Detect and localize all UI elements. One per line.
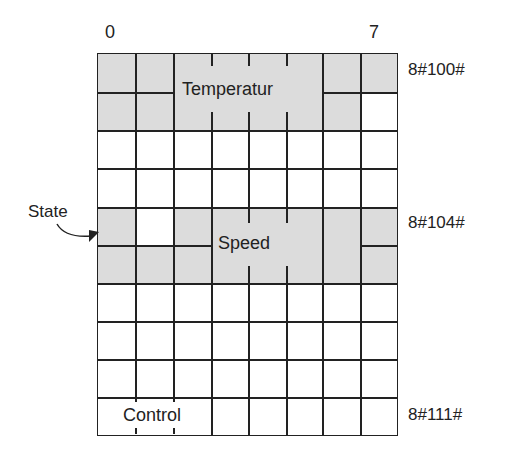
memory-grid: Temperatur Speed Control — [97, 53, 398, 436]
speed-label: Speed — [218, 233, 270, 254]
control-label: Control — [123, 405, 181, 426]
state-arrow-icon — [55, 222, 105, 244]
speed-field-row1 — [173, 207, 397, 245]
bit-label-7: 7 — [369, 22, 379, 43]
bit-label-0: 0 — [105, 22, 115, 43]
address-temperature: 8#100# — [408, 60, 465, 80]
state-label: State — [28, 202, 68, 222]
address-speed: 8#104# — [408, 213, 465, 233]
temperature-label: Temperatur — [182, 79, 273, 100]
address-control: 8#111# — [408, 405, 462, 425]
